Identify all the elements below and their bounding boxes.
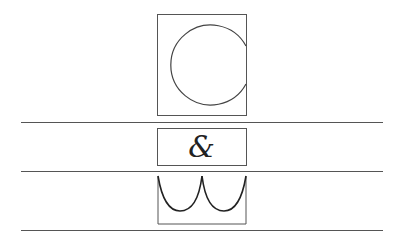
- divider-line-3: [21, 230, 383, 231]
- letter-w-glyph: [0, 0, 402, 242]
